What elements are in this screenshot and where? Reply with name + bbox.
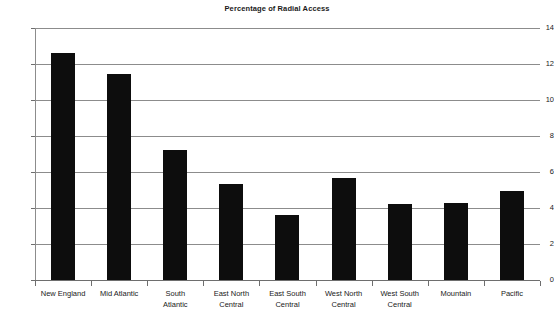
- bar-slot: [259, 28, 315, 280]
- plot-area: [35, 28, 540, 280]
- x-tick-mark: [147, 281, 148, 286]
- y-tick-mark: [31, 100, 35, 101]
- x-tick-label: Mid Atlantic: [91, 288, 147, 299]
- bar[interactable]: [51, 53, 75, 280]
- bar[interactable]: [107, 74, 131, 280]
- x-tick-mark: [259, 281, 260, 286]
- bar-slot: [316, 28, 372, 280]
- y-tick-label: 6: [528, 168, 554, 176]
- y-tick-label: 12: [528, 60, 554, 68]
- y-tick-label: 8: [528, 132, 554, 140]
- bar[interactable]: [332, 178, 356, 280]
- x-tick-mark: [540, 281, 541, 286]
- y-tick-label: 10: [528, 96, 554, 104]
- bar-slot: [372, 28, 428, 280]
- x-tick-label: West North Central: [316, 288, 372, 310]
- y-tick-label: 4: [528, 204, 554, 212]
- x-tick-label: East South Central: [259, 288, 315, 310]
- y-tick-mark: [31, 136, 35, 137]
- bar[interactable]: [444, 203, 468, 280]
- x-tick-mark: [91, 281, 92, 286]
- bar-slot: [428, 28, 484, 280]
- x-tick-label: Pacific: [484, 288, 540, 299]
- chart-title: Percentage of Radial Access: [0, 4, 554, 14]
- x-tick-mark: [428, 281, 429, 286]
- bar[interactable]: [500, 191, 524, 280]
- x-axis-ticks: [35, 281, 540, 286]
- x-tick-mark: [484, 281, 485, 286]
- y-tick-label: 14: [528, 24, 554, 32]
- y-tick-mark: [31, 208, 35, 209]
- y-tick-mark: [31, 172, 35, 173]
- x-tick-mark: [35, 281, 36, 286]
- y-tick-mark: [31, 244, 35, 245]
- y-tick-mark: [31, 64, 35, 65]
- x-tick-label: South Atlantic: [147, 288, 203, 310]
- bar-slot: [147, 28, 203, 280]
- bar[interactable]: [388, 204, 412, 280]
- x-tick-label: Mountain: [428, 288, 484, 299]
- x-tick-mark: [372, 281, 373, 286]
- x-tick-label: West South Central: [372, 288, 428, 310]
- x-tick-label: New England: [35, 288, 91, 299]
- x-tick-label: East North Central: [203, 288, 259, 310]
- bar-slot: [35, 28, 91, 280]
- bar[interactable]: [275, 215, 299, 280]
- y-tick-mark: [31, 28, 35, 29]
- bar[interactable]: [219, 184, 243, 280]
- bar-slot: [91, 28, 147, 280]
- bar-chart: Percentage of Radial Access 02468101214 …: [0, 0, 554, 320]
- bar-slot: [203, 28, 259, 280]
- y-tick-label: 2: [528, 240, 554, 248]
- bar[interactable]: [163, 150, 187, 281]
- x-axis-labels: New EnglandMid AtlanticSouth AtlanticEas…: [35, 288, 540, 316]
- x-tick-mark: [203, 281, 204, 286]
- x-tick-mark: [316, 281, 317, 286]
